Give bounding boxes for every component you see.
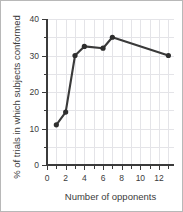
data-point bbox=[54, 122, 59, 127]
x-tick-label: 8 bbox=[119, 173, 124, 183]
data-point bbox=[110, 35, 115, 40]
chart-figure: 010203040 024681012 Number of opponents … bbox=[0, 0, 183, 212]
data-point bbox=[166, 53, 171, 58]
x-tick-label: 0 bbox=[45, 173, 50, 183]
x-tick-label: 6 bbox=[101, 173, 106, 183]
data-point bbox=[72, 53, 77, 58]
x-tick-label: 4 bbox=[82, 173, 87, 183]
x-axis-title: Number of opponents bbox=[65, 191, 157, 202]
y-tick-label: 0 bbox=[34, 160, 39, 170]
y-axis-title: % of trials in which subjects conformed bbox=[11, 15, 22, 179]
y-axis-ticks bbox=[42, 20, 47, 166]
data-point bbox=[82, 44, 87, 49]
y-tick-label: 10 bbox=[30, 124, 40, 134]
x-tick-label: 12 bbox=[154, 173, 164, 183]
y-axis-tick-labels: 010203040 bbox=[30, 14, 40, 170]
x-tick-label: 2 bbox=[63, 173, 68, 183]
x-tick-label: 10 bbox=[136, 173, 146, 183]
data-point bbox=[100, 46, 105, 51]
line-chart: 010203040 024681012 Number of opponents … bbox=[1, 1, 183, 212]
x-axis-tick-labels: 024681012 bbox=[45, 173, 164, 183]
y-tick-label: 40 bbox=[30, 14, 40, 24]
y-tick-label: 30 bbox=[30, 51, 40, 61]
y-tick-label: 20 bbox=[30, 87, 40, 97]
data-point bbox=[63, 109, 68, 114]
